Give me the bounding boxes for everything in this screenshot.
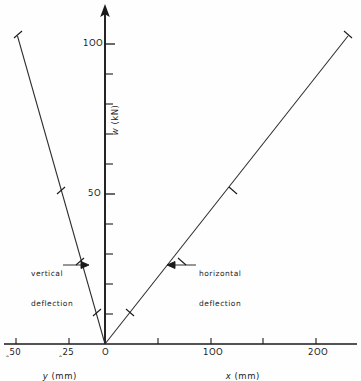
annotation-vertical-line1: vertical	[31, 269, 73, 279]
annotation-horizontal-deflection: horizontal deflection	[199, 249, 241, 329]
annotation-leaders	[63, 262, 196, 269]
x-axis-ticks	[16, 338, 316, 344]
x-tick-label-200: 2OO	[308, 347, 328, 357]
w-tick-label-50: 5O	[88, 188, 101, 198]
data-marker	[229, 187, 237, 194]
w-axis-ticks	[105, 44, 115, 314]
x-tick-label--25: ‸25	[59, 347, 74, 357]
w-tick-label-100: 1OO	[83, 38, 103, 48]
x-axis-unit: (mm)	[231, 371, 259, 381]
annotation-vertical-line2: deflection	[31, 299, 73, 309]
data-marker	[178, 258, 186, 265]
x-tick-label-100: 1OO	[203, 347, 223, 357]
leader-arrow-horizontal	[167, 262, 175, 269]
x-tick-label--50: ‸50	[6, 347, 21, 357]
w-axis-title: w (kN)	[100, 105, 130, 148]
leader-arrow-vertical	[81, 262, 89, 269]
annotation-horizontal-line2: deflection	[199, 299, 241, 309]
chart-figure: ‸50 ‸25 O 1OO 2OO 5O 1OO y (mm) x (mm) w…	[0, 0, 361, 381]
annotation-horizontal-line1: horizontal	[199, 269, 241, 279]
w-axis-unit: (kN)	[110, 105, 120, 128]
data-marker	[126, 309, 134, 316]
y-axis-unit: (mm)	[48, 371, 76, 381]
data-marker	[344, 31, 352, 38]
w-axis-symbol: w	[110, 128, 120, 135]
annotation-vertical-deflection: vertical deflection	[31, 249, 73, 329]
x-axis-title-negative: y (mm)	[30, 361, 77, 381]
x-tick-label-origin: O	[102, 347, 109, 357]
x-axis-title-positive: x (mm)	[213, 361, 260, 381]
